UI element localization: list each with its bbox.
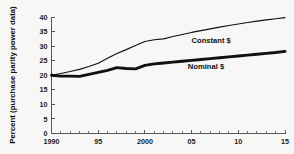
x-tick-label: 95 [94,137,102,146]
y-axis-title-group: Percent (purchase parity power data) [8,6,17,144]
y-axis-title: Percent (purchase parity power data) [8,6,17,144]
series-label: Nominal $ [188,62,225,71]
y-tick-label: 40 [40,13,48,22]
series-line-nominal [52,51,286,76]
y-tick-label: 15 [40,85,48,94]
data-series [52,18,286,77]
y-tick-label: 35 [40,27,48,36]
y-tick-label: 30 [40,42,48,51]
line-chart: Percent (purchase parity power data) 051… [0,0,294,154]
x-tick-label: 05 [188,137,196,146]
y-tick-label: 25 [40,56,48,65]
series-label: Constant $ [192,36,232,45]
series-annotations: Constant $Nominal $ [188,36,232,70]
x-axis-ticks: 1990952000051015 [44,130,290,147]
y-tick-label: 10 [40,100,48,109]
x-tick-label: 15 [281,137,289,146]
x-tick-label: 2000 [137,137,153,146]
series-line-constant [52,18,286,76]
y-tick-label: 5 [44,115,48,124]
x-tick-label: 10 [234,137,242,146]
chart-figure: Percent (purchase parity power data) 051… [0,0,294,154]
x-tick-label: 1990 [44,137,60,146]
y-tick-label: 20 [40,71,48,80]
